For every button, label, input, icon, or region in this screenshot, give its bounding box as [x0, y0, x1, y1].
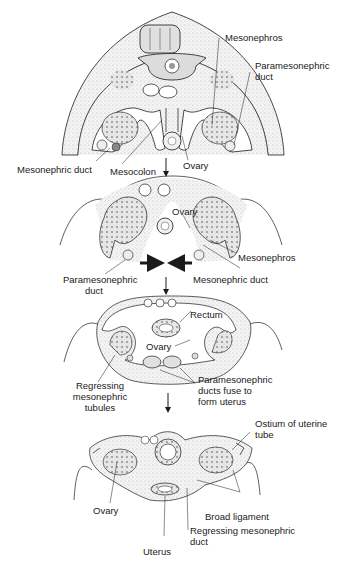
- label-ducts-fuse-a: Paramesonephric: [198, 374, 272, 385]
- label-mesonephros-2: Mesonephros: [238, 252, 296, 263]
- label-paramesonephric-duct-1b: duct: [255, 71, 273, 82]
- embryology-diagram: Mesonephros Paramesonephric duct Mesonep…: [0, 0, 347, 566]
- label-mesocolon: Mesocolon: [110, 166, 156, 177]
- label-mesonephros-1: Mesonephros: [225, 32, 283, 43]
- label-paramesonephric-duct-1a: Paramesonephric: [255, 60, 329, 71]
- label-regressing-tubules-a: Regressing: [72, 380, 128, 391]
- label-paramesonephric-duct-2b: duct: [85, 285, 103, 296]
- label-ovary-4: Ovary: [93, 505, 118, 516]
- label-regressing-tubules-b: mesonephric: [72, 391, 128, 402]
- label-ducts-fuse-b: ducts fuse to: [198, 385, 252, 396]
- stage-3-section: [64, 296, 282, 384]
- label-mesonephric-duct-2: Mesonephric duct: [193, 274, 268, 285]
- label-rectum: Rectum: [190, 309, 223, 320]
- label-ostium-b: tube: [255, 429, 274, 440]
- label-regressing-duct-b: duct: [190, 536, 208, 547]
- label-ovary-1: Ovary: [183, 160, 208, 171]
- label-ducts-fuse-c: form uterus: [198, 396, 246, 407]
- label-mesonephric-duct-1: Mesonephric duct: [17, 164, 92, 175]
- label-regressing-tubules-c: tubules: [72, 402, 128, 413]
- label-ovary-3: Ovary: [146, 341, 171, 352]
- label-broad-ligament: Broad ligament: [205, 511, 269, 522]
- label-ovary-2: Ovary: [172, 206, 197, 217]
- diagram-artwork: [0, 0, 347, 566]
- label-paramesonephric-duct-2a: Paramesonephric: [63, 274, 137, 285]
- label-ostium-a: Ostium of uterine: [255, 418, 327, 429]
- label-regressing-duct-a: Regressing mesonephric: [190, 525, 295, 536]
- label-uterus: Uterus: [143, 546, 171, 557]
